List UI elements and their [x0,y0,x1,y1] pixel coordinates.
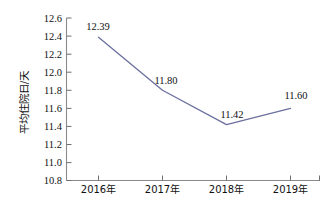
y-tick-label-10-8: 10.8 [44,175,62,186]
data-label-2017: 11.80 [154,75,177,86]
y-tick-label-11-6: 11.6 [44,103,62,114]
y-tick-label-11-8: 11.8 [44,85,62,96]
y-tick-label-12-2: 12.2 [44,49,62,60]
data-label-2018: 11.42 [220,109,243,120]
x-axis-label-2018: 2018年 [209,183,244,195]
y-tick-label-11-2: 11.2 [44,139,62,150]
x-axis-label-2017: 2017年 [145,183,180,195]
y-tick-label-11-4: 11.4 [44,121,63,132]
series-line-average-stay [99,37,291,124]
x-axis-label-2019: 2019年 [273,183,308,195]
x-axis-label-2016: 2016年 [81,183,116,195]
data-label-2016: 12.39 [86,21,110,32]
data-label-2019: 11.60 [284,90,307,101]
y-tick-label-12-4: 12.4 [44,31,63,42]
x-tick-marks [99,176,320,181]
y-tick-label-12-6: 12.6 [44,13,62,24]
y-tick-label-11-0: 11.0 [44,157,62,168]
chart-plot-area: 12.6 12.4 12.2 12.0 11.8 11.6 11.4 11.2 … [0,0,334,207]
y-tick-label-12-0: 12.0 [44,67,62,78]
y-tick-marks [67,18,72,181]
line-chart: 平均住院日/天 12.6 12.4 12.2 12.0 11.8 11.6 11… [0,0,334,207]
